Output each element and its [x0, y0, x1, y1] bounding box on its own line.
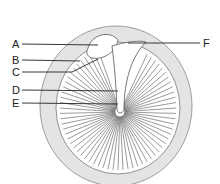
label-C: C [12, 67, 20, 78]
label-A: A [12, 39, 19, 50]
eardrum-diagram [0, 0, 220, 184]
label-B: B [12, 55, 19, 66]
label-E: E [12, 98, 19, 109]
label-D: D [12, 85, 20, 96]
label-F: F [203, 38, 210, 49]
